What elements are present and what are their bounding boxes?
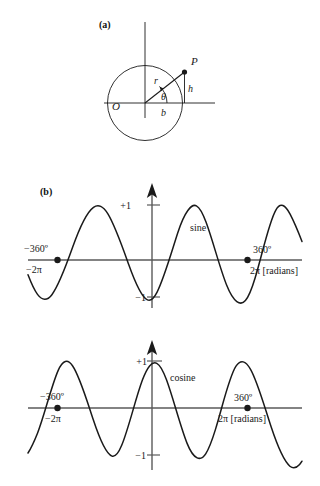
- cosine-marker-minus-2pi: [54, 405, 60, 411]
- sine-x-left-degrees-label: −360º: [24, 243, 48, 254]
- origin-label: O: [112, 100, 120, 112]
- radius-label: r: [154, 75, 158, 86]
- circle-diagram: O P r θ h b: [104, 22, 215, 141]
- cosine-plot: +1 −1 −360º −2π 360º 2π [radians] cosine: [28, 340, 302, 470]
- sine-y-bottom-label: −1: [135, 292, 146, 303]
- sine-marker-plus-2pi: [244, 257, 250, 263]
- sine-x-right-radians-label: 2π [radians]: [250, 265, 298, 276]
- point-p-label: P: [190, 55, 198, 67]
- cosine-x-left-radians-label: −2π: [45, 413, 61, 424]
- sine-y-top-label: +1: [120, 200, 131, 211]
- sine-marker-minus-2pi: [54, 257, 60, 263]
- cosine-y-top-label: +1: [136, 356, 147, 367]
- sine-x-left-radians-label: −2π: [26, 264, 42, 275]
- angle-label: θ: [161, 91, 166, 102]
- cosine-x-right-radians-label: 2π [radians]: [218, 413, 266, 424]
- figure-canvas: O P r θ h b +1 −1 −360º −2π: [0, 0, 320, 486]
- cosine-x-left-degrees-label: −360º: [40, 391, 64, 402]
- sine-plot: +1 −1 −360º −2π 360º 2π [radians] sine: [24, 183, 302, 308]
- cosine-x-right-degrees-label: 360º: [234, 392, 252, 403]
- cosine-marker-plus-2pi: [244, 405, 250, 411]
- trigonometry-figure: (a) (b) O P r θ h b: [0, 0, 320, 486]
- height-leg-label: h: [188, 83, 193, 94]
- cosine-y-bottom-label: −1: [135, 450, 146, 461]
- sine-curve-label: sine: [190, 222, 207, 233]
- base-leg-label: b: [161, 107, 166, 118]
- sine-x-right-degrees-label: 360º: [253, 244, 271, 255]
- point-p-marker: [182, 69, 187, 74]
- cosine-curve-label: cosine: [170, 372, 196, 383]
